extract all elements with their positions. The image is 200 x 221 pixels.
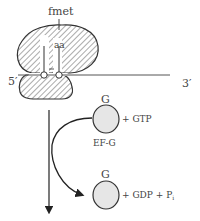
ribosome-small-subunit bbox=[19, 75, 72, 99]
efg-name-label: EF-G bbox=[93, 138, 116, 148]
efg-gdp-circle bbox=[93, 181, 119, 209]
translocation-diagram: fmet aa 5′ 3′ G EF-G + GTP G + GDP + Pi bbox=[0, 0, 200, 221]
aa-label: aa bbox=[54, 40, 65, 50]
mrna-3prime-label: 3′ bbox=[182, 77, 192, 90]
efg-bottom-g-label: G bbox=[101, 168, 110, 181]
trna-p-site bbox=[40, 35, 49, 74]
mrna-5prime-label: 5′ bbox=[8, 75, 18, 88]
anticodon-p bbox=[41, 72, 47, 78]
gdp-pi-label: + GDP + Pi bbox=[122, 190, 174, 201]
efg-cycle-arrow bbox=[52, 118, 92, 195]
efg-gtp-circle bbox=[93, 105, 119, 133]
gtp-label: + GTP bbox=[122, 114, 152, 124]
anticodon-a bbox=[56, 72, 62, 78]
efg-top-g-label: G bbox=[101, 93, 110, 106]
fmet-label: fmet bbox=[48, 5, 74, 18]
